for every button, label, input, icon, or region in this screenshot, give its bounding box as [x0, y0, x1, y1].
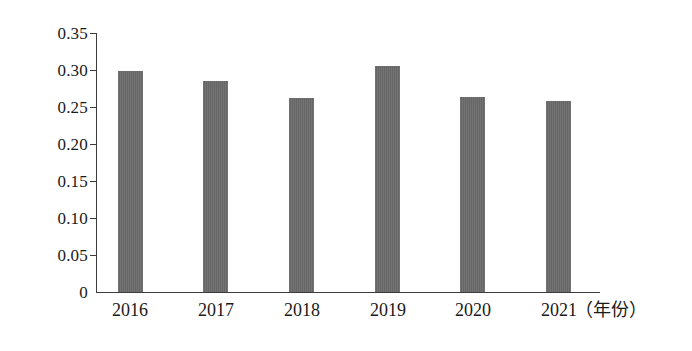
y-tick-label: 0.20 [0, 136, 88, 153]
bar-2021 [546, 101, 571, 292]
y-tick-label: 0.05 [0, 247, 88, 264]
x-axis-line [96, 292, 600, 293]
bar-2017 [203, 81, 228, 292]
x-tick-label-2021: 2021 [541, 299, 577, 321]
x-tick-label-2020: 2020 [455, 299, 491, 321]
y-axis-line [96, 33, 97, 293]
y-tick-label: 0.30 [0, 62, 88, 79]
y-tick-label: 0.10 [0, 210, 88, 227]
bar-2020 [460, 97, 485, 292]
bar-2018 [289, 98, 314, 292]
y-tick-label: 0 [0, 284, 88, 301]
x-tick-label-2018: 2018 [284, 299, 320, 321]
x-tick-label-2017: 2017 [198, 299, 234, 321]
bar-2016 [118, 71, 143, 292]
y-tick-label: 0.25 [0, 99, 88, 116]
y-tick-label: 0.35 [0, 25, 88, 42]
x-tick-label-2019: 2019 [370, 299, 406, 321]
bar-2019 [375, 66, 400, 292]
y-tick-label: 0.15 [0, 173, 88, 190]
x-tick-label-2016: 2016 [112, 299, 148, 321]
bar-chart: 0.35 0.30 0.25 0.20 0.15 0.10 0.05 0 201… [0, 0, 692, 351]
x-axis-unit-label: （年份） [575, 299, 647, 321]
